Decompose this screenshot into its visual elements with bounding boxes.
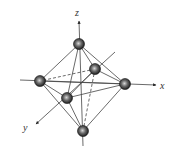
- octahedron-diagram: z x y: [0, 0, 190, 157]
- atom-left: [35, 76, 46, 87]
- atom-right: [120, 79, 131, 90]
- x-axis-label: x: [159, 80, 165, 91]
- y-axis: [36, 52, 115, 124]
- y-axis-label: y: [22, 122, 28, 133]
- z-axis-label: z: [74, 7, 79, 18]
- atom-bottom: [78, 126, 89, 137]
- atom-back: [90, 64, 101, 75]
- atom-front: [62, 93, 73, 104]
- atom-top: [74, 39, 85, 50]
